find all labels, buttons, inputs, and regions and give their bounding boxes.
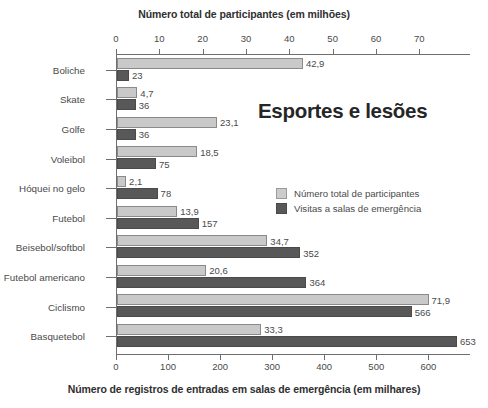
category-tick xyxy=(106,99,116,100)
bar-participants xyxy=(117,176,126,187)
bar-value-participants: 34,7 xyxy=(270,235,289,246)
bottom-axis-tick-label: 100 xyxy=(160,361,176,372)
legend-label: Visitas a salas de emergência xyxy=(294,203,421,214)
category-tick xyxy=(106,247,116,248)
bar-er-visits xyxy=(117,306,412,317)
bar-er-visits xyxy=(117,188,158,199)
bottom-axis-tick xyxy=(324,355,325,360)
top-axis-tick-label: 30 xyxy=(241,33,252,44)
bar-value-participants: 20,6 xyxy=(209,265,228,276)
top-axis-tick-label: 40 xyxy=(284,33,295,44)
category-tick xyxy=(106,336,116,337)
bottom-axis-tick-label: 500 xyxy=(368,361,384,372)
bar-participants xyxy=(117,235,267,246)
bar-er-visits xyxy=(117,70,129,81)
bottom-axis-tick xyxy=(116,355,117,360)
category-label: Golfe xyxy=(62,124,85,135)
top-axis-line xyxy=(116,54,470,55)
top-axis-tick xyxy=(419,49,420,54)
bar-participants xyxy=(117,206,177,217)
top-axis-tick-label: 20 xyxy=(197,33,208,44)
category-label: Futebol xyxy=(52,212,85,223)
category-tick xyxy=(106,307,116,308)
top-axis-tick xyxy=(159,49,160,54)
bar-participants xyxy=(117,87,137,98)
bar-value-participants: 2,1 xyxy=(129,176,142,187)
bottom-axis-tick xyxy=(428,355,429,360)
bottom-axis-tick-label: 0 xyxy=(113,361,118,372)
top-axis-tick-label: 70 xyxy=(414,33,425,44)
category-label: Hóquei no gelo xyxy=(19,183,85,194)
top-axis-tick xyxy=(333,49,334,54)
bar-value-participants: 71,9 xyxy=(432,294,451,305)
bar-er-visits xyxy=(117,277,306,288)
bar-value-er-visits: 352 xyxy=(303,247,319,258)
bar-participants xyxy=(117,324,261,335)
category-label: Futebol americano xyxy=(4,272,85,283)
bar-er-visits xyxy=(117,99,136,110)
bar-value-er-visits: 23 xyxy=(132,70,143,81)
bar-participants xyxy=(117,265,206,276)
bar-chart: Número total de participantes (em milhõe… xyxy=(0,0,488,408)
bottom-axis-tick-label: 600 xyxy=(420,361,436,372)
bottom-axis-tick-label: 300 xyxy=(264,361,280,372)
top-axis-tick xyxy=(246,49,247,54)
legend-swatch-icon xyxy=(276,188,287,199)
bar-value-participants: 42,9 xyxy=(306,58,325,69)
category-label: Boliche xyxy=(53,64,85,75)
bottom-axis-tick-label: 400 xyxy=(316,361,332,372)
bar-er-visits xyxy=(117,336,457,347)
bar-value-er-visits: 36 xyxy=(139,99,150,110)
bar-value-er-visits: 75 xyxy=(159,158,170,169)
bottom-axis-title: Número de registros de entradas em salas… xyxy=(0,383,488,395)
top-axis-tick-label: 60 xyxy=(371,33,382,44)
bar-value-participants: 23,1 xyxy=(220,117,239,128)
legend-item: Número total de participantes xyxy=(276,187,421,200)
bar-participants xyxy=(117,58,303,69)
category-label: Basquetebol xyxy=(31,331,85,342)
top-axis-tick xyxy=(116,49,117,54)
chart-title: Esportes e lesões xyxy=(258,99,427,123)
top-axis-tick-label: 50 xyxy=(327,33,338,44)
legend-swatch-icon xyxy=(276,203,287,214)
bar-value-er-visits: 36 xyxy=(139,129,150,140)
bar-value-er-visits: 566 xyxy=(415,306,431,317)
bar-er-visits xyxy=(117,158,156,169)
bar-participants xyxy=(117,146,197,157)
top-axis-tick xyxy=(203,49,204,54)
bottom-axis-tick xyxy=(168,355,169,360)
category-label: Voleibol xyxy=(51,153,85,164)
category-tick xyxy=(106,277,116,278)
bar-value-participants: 33,3 xyxy=(264,324,283,335)
bar-er-visits xyxy=(117,218,199,229)
category-tick xyxy=(106,218,116,219)
bar-er-visits xyxy=(117,129,136,140)
bottom-axis-line xyxy=(116,354,470,355)
bar-value-er-visits: 653 xyxy=(460,336,476,347)
bar-value-er-visits: 78 xyxy=(161,188,172,199)
bar-er-visits xyxy=(117,247,300,258)
legend: Número total de participantesVisitas a s… xyxy=(270,183,427,220)
top-axis-title: Número total de participantes (em milhõe… xyxy=(0,8,488,20)
category-tick xyxy=(106,159,116,160)
legend-item: Visitas a salas de emergência xyxy=(276,202,421,215)
bar-participants xyxy=(117,294,429,305)
bar-value-participants: 4,7 xyxy=(140,87,153,98)
bottom-axis-tick xyxy=(376,355,377,360)
bar-value-participants: 13,9 xyxy=(180,206,199,217)
bar-participants xyxy=(117,117,217,128)
category-label: Skate xyxy=(60,94,85,105)
category-tick xyxy=(106,129,116,130)
category-label: Beisebol/softbol xyxy=(16,242,85,253)
top-axis-tick-label: 10 xyxy=(154,33,165,44)
bar-value-er-visits: 364 xyxy=(309,277,325,288)
category-tick xyxy=(106,70,116,71)
bar-value-participants: 18,5 xyxy=(200,146,219,157)
legend-label: Número total de participantes xyxy=(294,188,419,199)
bar-value-er-visits: 157 xyxy=(202,218,218,229)
top-axis-tick xyxy=(289,49,290,54)
category-label: Ciclismo xyxy=(48,301,85,312)
bottom-axis-tick-label: 200 xyxy=(212,361,228,372)
bottom-axis-tick xyxy=(272,355,273,360)
top-axis-tick-label: 0 xyxy=(113,33,118,44)
